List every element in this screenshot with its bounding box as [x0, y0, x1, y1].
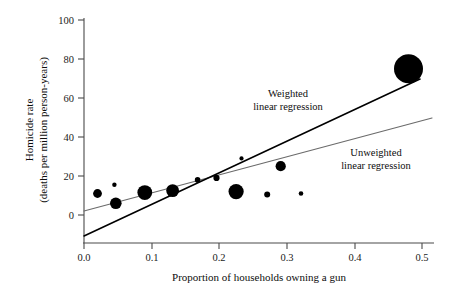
x-tick-label-1: 0.1	[145, 252, 158, 263]
y-tick-group: 100 80 60 40 20 0	[58, 15, 84, 221]
unweighted-label-line2: linear regression	[341, 160, 411, 171]
data-point	[264, 192, 270, 198]
data-point	[276, 161, 286, 171]
y-axis-title-line1: Homicide rate	[23, 99, 35, 162]
y-axis-title-line2: (deaths per million person-years)	[37, 57, 50, 203]
data-point	[299, 191, 304, 196]
weighted-annotation: Weighted linear regression	[253, 88, 323, 112]
unweighted-label-line1: Unweighted	[350, 147, 402, 158]
data-point	[239, 156, 243, 160]
x-tick-label-3: 0.3	[280, 252, 293, 263]
plot-canvas: 100 80 60 40 20 0 0.0 0.1 0.2 0.3 0.4 0.…	[0, 0, 450, 292]
x-axis-title: Proportion of households owning a gun	[172, 271, 346, 283]
data-point	[112, 183, 116, 187]
x-tick-label-2: 0.2	[212, 252, 225, 263]
y-tick-label-40: 40	[64, 132, 75, 143]
data-point	[213, 175, 219, 181]
data-point	[110, 198, 122, 210]
y-tick-label-80: 80	[64, 54, 75, 65]
axes-group	[83, 18, 434, 243]
y-tick-label-0: 0	[69, 210, 74, 221]
data-point	[195, 177, 201, 183]
y-tick-label-100: 100	[58, 15, 74, 26]
weighted-label-line2: linear regression	[253, 101, 323, 112]
y-tick-label-20: 20	[64, 171, 75, 182]
x-tick-label-0: 0.0	[77, 252, 90, 263]
data-point	[93, 189, 102, 198]
x-tick-label-4: 0.4	[348, 252, 362, 263]
data-point	[394, 54, 423, 83]
data-points-group	[93, 54, 423, 209]
y-tick-label-60: 60	[64, 93, 75, 104]
scatter-plot-figure: 100 80 60 40 20 0 0.0 0.1 0.2 0.3 0.4 0.…	[0, 0, 450, 292]
weighted-label-line1: Weighted	[268, 88, 309, 99]
data-point	[137, 185, 152, 200]
data-point	[229, 184, 244, 199]
x-tick-group: 0.0 0.1 0.2 0.3 0.4 0.5	[77, 243, 428, 263]
x-tick-label-5: 0.5	[415, 252, 428, 263]
unweighted-annotation: Unweighted linear regression	[341, 147, 411, 171]
data-point	[166, 184, 179, 197]
